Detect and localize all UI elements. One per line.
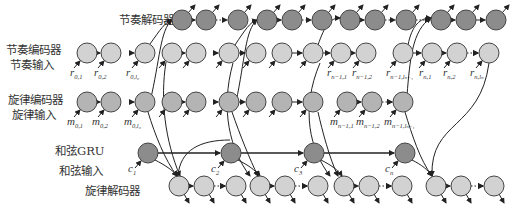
chord-input-symbol: c3 (294, 162, 303, 176)
rhythm-encoder-node (186, 43, 206, 63)
input-labels: r0,1r0,2r0,l₀rn−1,1rn−1,2rn−1,lₙ₋₁rn,1rn… (67, 66, 484, 176)
rhythm-decoder-node (456, 10, 476, 30)
rhythm-encoder-node (272, 43, 292, 63)
melody-encoder-node (246, 92, 266, 112)
melody-encoder-node (162, 92, 182, 112)
melody-decoder-node (250, 176, 270, 196)
rhythm-input-symbol: rn,lₙ (470, 66, 484, 80)
output-arrow (244, 5, 251, 13)
melody-input-symbol: mn−1,lₙ₋₁ (384, 115, 415, 129)
melody-encoder-node (362, 92, 382, 112)
rhythm-encoder-node (303, 43, 323, 63)
output-arrow (356, 5, 363, 13)
melody-encoder-label: 旋律编码器 (8, 93, 64, 107)
melody-decoder-node (275, 176, 295, 196)
rhythm-decoder-node (396, 10, 416, 30)
output-arrow (265, 194, 270, 203)
input-arrow (183, 61, 189, 68)
rhythm-decoder-node (431, 10, 451, 30)
input-arrow (390, 61, 396, 68)
output-arrow (328, 5, 335, 13)
rhythm-decoder-label: 节奏解码器 (119, 13, 175, 27)
rhythm-decoder-node (196, 10, 216, 30)
rhythm-input-symbol: r0,l₀ (126, 66, 139, 80)
melody-decoder-node (484, 176, 504, 196)
rhythm-encoder-node (246, 43, 266, 63)
diagram-svg: 节奏解码器 节奏编码器 节奏输入 旋律编码器 旋律输入 和弦GRU 和弦输入 旋… (0, 0, 513, 210)
input-arrow (74, 61, 80, 68)
melody-encoder-node (186, 92, 206, 112)
chord-gru-node (395, 143, 415, 163)
rhythm-encoder-node (135, 43, 155, 63)
chord-gru-node (304, 143, 324, 163)
input-arrow (216, 110, 222, 117)
output-arrow (298, 5, 305, 13)
output-arrow (499, 194, 504, 203)
output-arrow (209, 194, 214, 203)
output-arrow (502, 5, 509, 13)
input-arrow (243, 110, 249, 117)
output-arrow (381, 5, 388, 13)
output-arrow (441, 194, 446, 203)
rhythm-input-symbol: r0,1 (70, 66, 82, 80)
output-arrow (184, 194, 189, 203)
melody-decoder-node (308, 176, 328, 196)
melody-input-symbol: mn−1,2 (356, 115, 380, 129)
input-arrow (159, 61, 165, 68)
input-arrow (476, 61, 482, 68)
melody-encoder-node (77, 92, 97, 112)
melody-decoder-node (226, 176, 246, 196)
melody-encoder-node (393, 92, 413, 112)
input-arrow (269, 61, 275, 68)
input-arrow (243, 61, 249, 68)
chord-gru-node (221, 143, 241, 163)
melody-decoder-node (451, 176, 471, 196)
rhythm-encoder-node (356, 43, 376, 63)
rhythm-encoder-node (479, 43, 499, 63)
rhythm-encoder-node (393, 43, 413, 63)
rhythm-decoder-node (228, 10, 248, 30)
rhythm-decoder-node (486, 10, 506, 30)
chord-gru-node (138, 143, 158, 163)
rhythm-decoder-node (172, 10, 192, 30)
input-arrow (98, 61, 104, 68)
rhythm-input-label: 节奏输入 (10, 58, 55, 72)
output-arrow (447, 5, 454, 13)
melody-input-symbol: m0,2 (92, 115, 109, 129)
melody-encoder-node (219, 92, 239, 112)
rhythm-encoder-node (219, 43, 239, 63)
output-arrow (290, 194, 295, 203)
input-arrow (300, 61, 306, 68)
melody-encoder-node (101, 92, 121, 112)
output-arrow (212, 5, 219, 13)
rhythm-decoder-node (257, 10, 277, 30)
melody-input-label: 旋律输入 (12, 108, 57, 122)
input-arrow (300, 110, 306, 117)
output-arrow (466, 194, 471, 203)
output-arrow (407, 194, 412, 203)
melody-decoder-node (169, 176, 189, 196)
input-arrow (132, 61, 138, 68)
input-arrow (392, 161, 398, 168)
output-arrow (241, 194, 246, 203)
output-arrow (349, 194, 354, 203)
output-arrow (273, 5, 280, 13)
melody-decoder-node (359, 176, 379, 196)
output-arrow (323, 194, 328, 203)
chord-gru-label: 和弦GRU (55, 144, 105, 158)
rhythm-decoder-node (340, 10, 360, 30)
melody-decoder-node (426, 176, 446, 196)
input-arrow (132, 110, 138, 117)
rhythm-input-symbol: rn−1,2 (352, 66, 373, 80)
output-arrow (374, 194, 379, 203)
chord-input-label: 和弦输入 (59, 164, 104, 178)
rhythm-decoder-node (312, 10, 332, 30)
rhythm-input-symbol: r0,2 (94, 66, 107, 80)
rhythm-encoder-node (101, 43, 121, 63)
melody-decoder-node (194, 176, 214, 196)
output-arrow (188, 5, 195, 13)
music-generation-diagram: 节奏解码器 节奏编码器 节奏输入 旋律编码器 旋律输入 和弦GRU 和弦输入 旋… (0, 0, 513, 210)
chord-input-symbol: c1 (128, 162, 136, 176)
rhythm-encoder-node (331, 43, 351, 63)
input-arrow (135, 161, 141, 168)
